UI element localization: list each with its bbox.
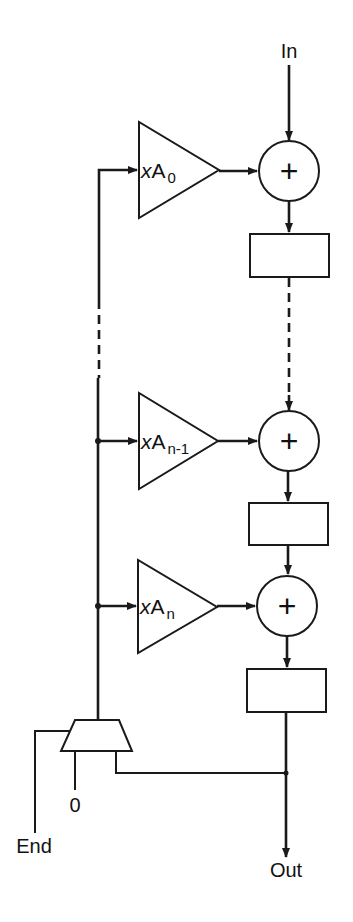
register-box-n bbox=[247, 669, 326, 712]
plus-icon: + bbox=[280, 423, 299, 459]
tap-wire-0 bbox=[99, 170, 137, 300]
output-label: Out bbox=[270, 859, 303, 881]
zero-label: 0 bbox=[69, 794, 80, 816]
multiplexer bbox=[61, 720, 132, 751]
feedback-wire bbox=[116, 751, 286, 773]
plus-icon: + bbox=[278, 588, 297, 624]
stage-n: xAn + bbox=[95, 560, 326, 712]
plus-icon: + bbox=[280, 153, 299, 189]
register-box-0 bbox=[250, 234, 329, 277]
block-diagram: In xA0 + xAn-1 + xAn + bbox=[0, 0, 353, 922]
input-label: In bbox=[281, 40, 298, 62]
stage-n-1: xAn-1 + bbox=[95, 393, 328, 574]
stage-0: xA0 + bbox=[99, 122, 329, 300]
end-label: End bbox=[16, 835, 52, 857]
register-box-n-1 bbox=[249, 503, 328, 545]
